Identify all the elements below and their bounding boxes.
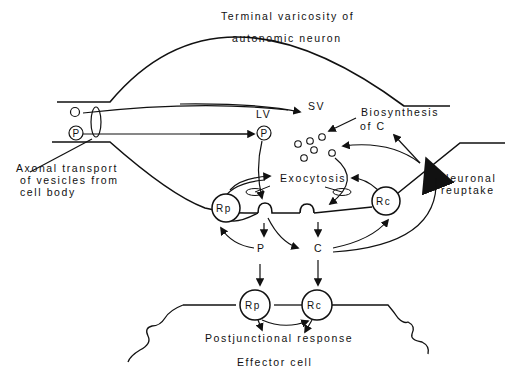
postjunctional-rc-receptor: Rc — [302, 290, 332, 320]
prejunctional-rp-receptor: Rp — [212, 194, 240, 222]
p-transmitter-label: P — [257, 242, 266, 254]
biosynthesis-label-1: Biosynthesis — [361, 106, 439, 118]
axonal-transport-label-2: of vesicles from — [20, 174, 119, 186]
postjunctional-rp-receptor: Rp — [240, 290, 270, 320]
p-to-rp-arrow — [221, 228, 254, 248]
small-vesicles — [295, 134, 336, 162]
svg-text:Rp: Rp — [245, 300, 261, 311]
axon-empty-vesicle — [71, 108, 80, 117]
lv-label: LV — [256, 108, 271, 120]
neuron-varicosity-diagram: P P Rp Rc — [0, 0, 527, 375]
biosynthesis-label-2: of C — [360, 120, 386, 132]
varicosity-membrane — [52, 37, 505, 213]
rc-to-exocytosis-arrow — [352, 178, 378, 190]
p-to-c-arrow — [268, 218, 298, 248]
svg-text:Rc: Rc — [307, 300, 322, 311]
effector-cell-label: Effector cell — [237, 356, 312, 368]
reuptake-to-biosynthesis-arrow — [394, 135, 420, 163]
reuptake-to-vesicles-arrow — [343, 145, 420, 163]
svg-text:Rc: Rc — [376, 196, 391, 207]
axon-p-vesicle: P — [69, 126, 83, 140]
prejunctional-rc-receptor: Rc — [372, 187, 400, 215]
lv-p-vesicle: P — [257, 126, 271, 140]
axonal-transport-label-1: Axonal transport — [16, 162, 118, 174]
svg-text:P: P — [73, 128, 81, 139]
title-line1: Terminal varicosity of — [221, 10, 354, 22]
rp-response-arrow — [258, 320, 262, 330]
title-line2: autonomic neuron — [232, 32, 342, 44]
c-transmitter-label: C — [314, 242, 323, 254]
biosynthesis-arrow — [329, 118, 356, 131]
exocytosis-label: Exocytosis — [280, 172, 346, 184]
neuronal-reuptake-label-1: Neuronal — [441, 172, 496, 184]
postjunctional-response-label: Postjunctional response — [205, 332, 353, 344]
axonal-transport-label-3: cell body — [20, 186, 76, 198]
neuronal-reuptake-label-2: reuptake — [441, 184, 495, 196]
svg-text:P: P — [261, 128, 269, 139]
sv-label: SV — [308, 100, 325, 112]
rp-to-rc-post-arrow — [262, 320, 308, 325]
svg-text:Rp: Rp — [216, 203, 232, 214]
c-to-rc-arrow — [333, 220, 388, 248]
